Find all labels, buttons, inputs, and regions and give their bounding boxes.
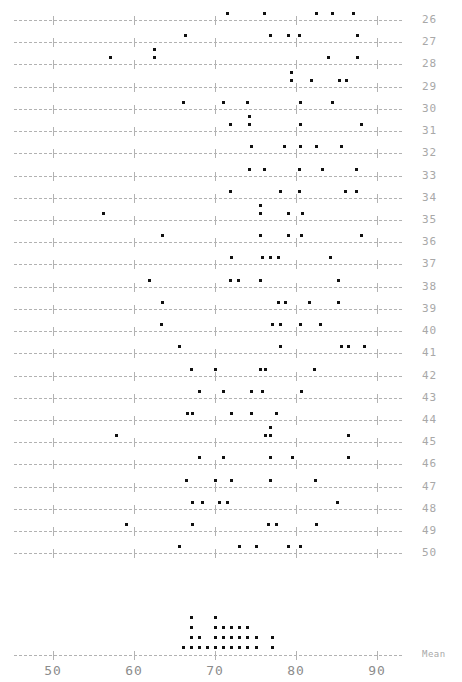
axis-tick bbox=[296, 416, 297, 425]
row-reference-line bbox=[14, 376, 402, 378]
row-reference-line bbox=[14, 42, 402, 44]
axis-tick bbox=[215, 60, 216, 69]
data-point bbox=[182, 101, 185, 104]
data-point bbox=[222, 390, 225, 393]
data-point bbox=[315, 12, 318, 15]
data-point bbox=[275, 523, 278, 526]
data-point bbox=[279, 190, 282, 193]
data-point bbox=[299, 545, 302, 548]
axis-tick bbox=[134, 394, 135, 403]
data-point bbox=[248, 123, 251, 126]
row-label: 30 bbox=[422, 103, 437, 114]
data-point bbox=[355, 168, 358, 171]
axis-tick bbox=[53, 127, 54, 136]
data-point bbox=[263, 12, 266, 15]
data-point bbox=[337, 279, 340, 282]
axis-tick bbox=[53, 372, 54, 381]
x-axis-tick-label: 80 bbox=[287, 664, 305, 677]
data-point bbox=[299, 123, 302, 126]
axis-tick bbox=[53, 60, 54, 69]
axis-tick bbox=[377, 60, 378, 69]
mean-dotplot-dot bbox=[222, 646, 225, 649]
axis-tick bbox=[296, 394, 297, 403]
data-point bbox=[290, 79, 293, 82]
axis-tick bbox=[53, 651, 54, 660]
data-point bbox=[250, 412, 253, 415]
data-point bbox=[230, 479, 233, 482]
axis-tick bbox=[215, 238, 216, 247]
data-point bbox=[191, 501, 194, 504]
row-label: 42 bbox=[422, 370, 437, 381]
axis-tick bbox=[53, 38, 54, 47]
data-point bbox=[355, 190, 358, 193]
row-label: 50 bbox=[422, 547, 437, 558]
mean-dotplot-dot bbox=[214, 626, 217, 629]
data-point bbox=[360, 123, 363, 126]
data-point bbox=[277, 301, 280, 304]
data-point bbox=[299, 323, 302, 326]
axis-tick bbox=[377, 549, 378, 558]
data-point bbox=[269, 434, 272, 437]
data-point bbox=[340, 145, 343, 148]
data-point bbox=[279, 323, 282, 326]
axis-tick bbox=[53, 83, 54, 92]
row-label: 35 bbox=[422, 214, 437, 225]
axis-tick bbox=[377, 105, 378, 114]
data-point bbox=[261, 256, 264, 259]
mean-dotplot-dot bbox=[190, 626, 193, 629]
axis-tick bbox=[53, 460, 54, 469]
mean-dotplot-dot bbox=[246, 636, 249, 639]
mean-dotplot-dot bbox=[190, 646, 193, 649]
data-point bbox=[299, 101, 302, 104]
axis-tick bbox=[296, 216, 297, 225]
axis-tick bbox=[134, 172, 135, 181]
axis-tick bbox=[53, 349, 54, 358]
data-point bbox=[267, 523, 270, 526]
data-point bbox=[259, 204, 262, 207]
data-point bbox=[246, 101, 249, 104]
data-point bbox=[331, 12, 334, 15]
data-point bbox=[300, 390, 303, 393]
data-point bbox=[269, 479, 272, 482]
axis-tick bbox=[134, 83, 135, 92]
data-point bbox=[315, 145, 318, 148]
row-label: 46 bbox=[422, 458, 437, 469]
axis-tick bbox=[377, 83, 378, 92]
mean-dotplot-dot bbox=[255, 646, 258, 649]
axis-tick bbox=[53, 172, 54, 181]
row-label: 34 bbox=[422, 192, 437, 203]
data-point bbox=[214, 368, 217, 371]
axis-tick bbox=[296, 327, 297, 336]
data-point bbox=[287, 212, 290, 215]
data-point bbox=[283, 145, 286, 148]
data-point bbox=[347, 456, 350, 459]
row-reference-line bbox=[14, 176, 402, 178]
axis-tick bbox=[296, 438, 297, 447]
data-point bbox=[298, 34, 301, 37]
axis-tick bbox=[215, 460, 216, 469]
axis-tick bbox=[377, 438, 378, 447]
row-reference-line bbox=[14, 109, 402, 111]
mean-dotplot-dot bbox=[182, 646, 185, 649]
data-point bbox=[229, 279, 232, 282]
data-point bbox=[201, 501, 204, 504]
data-point bbox=[356, 56, 359, 59]
x-axis-tick-label: 90 bbox=[368, 664, 386, 677]
data-point bbox=[186, 412, 189, 415]
axis-tick bbox=[134, 260, 135, 269]
axis-tick bbox=[377, 283, 378, 292]
axis-tick bbox=[296, 349, 297, 358]
axis-tick bbox=[134, 549, 135, 558]
row-reference-line bbox=[14, 487, 402, 489]
row-label: 41 bbox=[422, 347, 437, 358]
row-label: 31 bbox=[422, 125, 437, 136]
axis-tick bbox=[215, 349, 216, 358]
axis-tick bbox=[296, 372, 297, 381]
axis-tick bbox=[134, 60, 135, 69]
row-label: 29 bbox=[422, 81, 437, 92]
row-reference-line bbox=[14, 153, 402, 155]
data-point bbox=[298, 190, 301, 193]
data-point bbox=[250, 145, 253, 148]
mean-axis-line bbox=[14, 655, 402, 657]
data-point bbox=[222, 101, 225, 104]
